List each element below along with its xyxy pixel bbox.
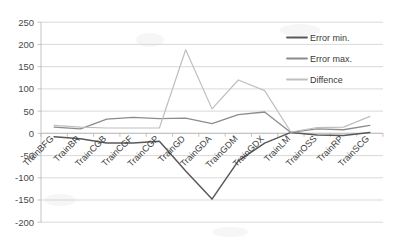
- y-tick-label: 50: [23, 106, 34, 117]
- legend-label-diffence: Diffence: [310, 75, 343, 85]
- y-tick-label: 200: [18, 39, 34, 50]
- y-tick-labels: 250 200 150 100 50 0 -50 -100 -150 -200: [15, 17, 34, 228]
- chart-legend: Error min. Error max. Diffence: [287, 33, 352, 85]
- y-tick-label: 250: [18, 17, 34, 28]
- y-tick-label: 100: [18, 83, 34, 94]
- chart-container: 250 200 150 100 50 0 -50 -100 -150 -200 …: [0, 0, 406, 246]
- line-chart: 250 200 150 100 50 0 -50 -100 -150 -200 …: [0, 0, 406, 246]
- legend-label-error-min: Error min.: [310, 33, 350, 43]
- grid-lines: [41, 22, 383, 222]
- series-line-error-max: [54, 112, 370, 132]
- y-tick-label: -100: [15, 172, 34, 183]
- scan-artifacts: [44, 24, 320, 237]
- series-layer: [54, 50, 370, 199]
- y-axis: [38, 22, 42, 222]
- y-tick-label: -150: [15, 194, 34, 205]
- x-tick-labels: TrainBFGTrainBRTrainCGBTrainCGFTrainCGPT…: [21, 133, 371, 170]
- y-tick-label: 150: [18, 61, 34, 72]
- legend-label-error-max: Error max.: [310, 54, 352, 64]
- y-tick-label: 0: [29, 128, 34, 139]
- y-tick-label: -200: [15, 217, 34, 228]
